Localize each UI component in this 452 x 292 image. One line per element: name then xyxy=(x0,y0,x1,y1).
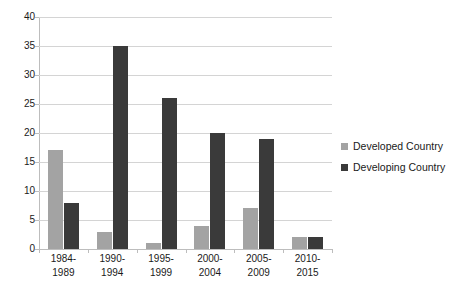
bar-developed xyxy=(243,208,258,249)
legend-swatch-icon xyxy=(341,143,348,150)
y-axis-tick-mark xyxy=(35,17,39,18)
y-axis-tick-label: 25 xyxy=(1,99,35,109)
x-axis-tick-mark xyxy=(88,249,89,253)
y-axis-tick-mark xyxy=(35,46,39,47)
x-label-line2: 1989 xyxy=(39,266,88,280)
bar-group xyxy=(186,17,235,249)
x-label-line2: 1994 xyxy=(88,266,137,280)
x-axis-tick-labels: 1984-19891990-19941995-19992000-20042005… xyxy=(39,252,332,292)
bar-chart: 4035302520151050 1984-19891990-19941995-… xyxy=(0,0,452,292)
chart-legend: Developed CountryDeveloping Country xyxy=(341,140,451,182)
bar-developed xyxy=(292,237,307,249)
x-label-line2: 1999 xyxy=(137,266,186,280)
x-label-line1: 1990- xyxy=(99,253,125,264)
bar-developing xyxy=(308,237,323,249)
legend-swatch-icon xyxy=(341,164,348,171)
y-axis-tick-label: 0 xyxy=(1,244,35,254)
x-label-line2: 2009 xyxy=(234,266,283,280)
y-axis-tick-label: 30 xyxy=(1,70,35,80)
x-label-line2: 2015 xyxy=(283,266,332,280)
y-axis-tick-mark xyxy=(35,220,39,221)
legend-item[interactable]: Developed Country xyxy=(341,140,451,152)
y-axis-tick-label: 20 xyxy=(1,128,35,138)
x-axis-tick-mark xyxy=(234,249,235,253)
bar-developing xyxy=(259,139,274,249)
y-axis-tick-label: 15 xyxy=(1,157,35,167)
bar-developing xyxy=(210,133,225,249)
y-axis-tick-mark xyxy=(35,104,39,105)
plot-area xyxy=(39,17,332,249)
y-axis-tick-label: 40 xyxy=(1,12,35,22)
x-label-line2: 2004 xyxy=(186,266,235,280)
legend-label: Developing Country xyxy=(353,161,445,173)
x-axis-tick-label: 2000-2004 xyxy=(186,252,235,280)
x-axis-tick-mark xyxy=(137,249,138,253)
x-axis-tick-label: 1995-1999 xyxy=(137,252,186,280)
x-label-line1: 1984- xyxy=(51,253,77,264)
x-axis-tick-label: 1990-1994 xyxy=(88,252,137,280)
x-label-line1: 1995- xyxy=(148,253,174,264)
x-axis-tick-label: 2010-2015 xyxy=(283,252,332,280)
legend-item[interactable]: Developing Country xyxy=(341,161,451,173)
legend-label: Developed Country xyxy=(353,140,443,152)
bar-group xyxy=(234,17,283,249)
bar-developed xyxy=(97,232,112,249)
bar-developed xyxy=(194,226,209,249)
x-label-line1: 2005- xyxy=(246,253,272,264)
bar-developing xyxy=(162,98,177,249)
x-label-line1: 2010- xyxy=(295,253,321,264)
y-axis-tick-label: 10 xyxy=(1,186,35,196)
x-axis-tick-mark xyxy=(283,249,284,253)
y-axis-tick-mark xyxy=(35,162,39,163)
x-label-line1: 2000- xyxy=(197,253,223,264)
bar-developed xyxy=(146,243,161,249)
x-axis-tick-label: 1984-1989 xyxy=(39,252,88,280)
bar-group xyxy=(88,17,137,249)
x-axis-tick-label: 2005-2009 xyxy=(234,252,283,280)
bar-group xyxy=(39,17,88,249)
y-axis-tick-label: 5 xyxy=(1,215,35,225)
x-axis-tick-mark xyxy=(332,249,333,253)
bar-developed xyxy=(48,150,63,249)
y-axis-tick-labels: 4035302520151050 xyxy=(0,0,35,292)
y-axis-tick-mark xyxy=(35,75,39,76)
x-axis-tick-mark xyxy=(39,249,40,253)
x-axis-tick-mark xyxy=(186,249,187,253)
bar-developing xyxy=(64,203,79,249)
bar-group xyxy=(283,17,332,249)
bar-developing xyxy=(113,46,128,249)
bar-group xyxy=(137,17,186,249)
y-axis-tick-label: 35 xyxy=(1,41,35,51)
y-axis-tick-mark xyxy=(35,191,39,192)
y-axis-tick-mark xyxy=(35,133,39,134)
